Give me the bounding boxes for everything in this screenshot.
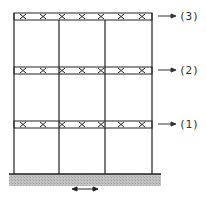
ground-base	[9, 174, 161, 186]
arrow-icon-3	[158, 14, 176, 18]
floor-beam-1	[14, 121, 152, 128]
arrow-icon-2	[158, 68, 176, 72]
floor-label-2: (2)	[179, 64, 199, 77]
columns	[14, 13, 152, 174]
floor-label-1: (1)	[179, 118, 199, 131]
arrow-icon-1	[158, 122, 176, 126]
floor-label-3: (3)	[179, 10, 199, 23]
frame-diagram: (3) (2) (1)	[0, 0, 206, 202]
floor-beam-2	[14, 67, 152, 74]
floor-beam-3	[14, 13, 152, 20]
double-arrow-icon	[72, 187, 98, 191]
